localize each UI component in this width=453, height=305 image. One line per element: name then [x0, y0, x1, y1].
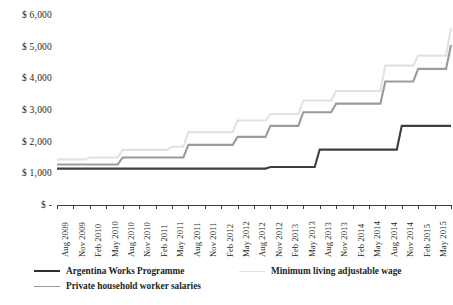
- chart-container: $ -$ 1,000$ 2,000$ 3,000$ 4,000$ 5,000$ …: [0, 0, 453, 305]
- x-axis-tick-label: Aug 2013: [323, 222, 333, 257]
- x-axis-tick-label: May 2010: [110, 221, 120, 257]
- y-axis-labels: $ -$ 1,000$ 2,000$ 3,000$ 4,000$ 5,000$ …: [0, 0, 52, 215]
- x-axis-tick-label: Feb 2012: [225, 224, 235, 257]
- x-axis-tick-label: Feb 2014: [356, 224, 366, 257]
- x-axis-tick-label: Aug 2012: [257, 222, 267, 257]
- x-axis-tick-label: Feb 2010: [93, 224, 103, 257]
- x-axis-tick-label: Aug 2010: [126, 222, 136, 257]
- legend-item-minimum-living-adjustable-wage: Minimum living adjustable wage: [239, 266, 401, 276]
- chart-legend: Argentina Works Programme Minimum living…: [0, 266, 453, 305]
- legend-swatch-argentina-works-programme: [34, 270, 60, 272]
- plot-wrapper: $ -$ 1,000$ 2,000$ 3,000$ 4,000$ 5,000$ …: [0, 0, 453, 215]
- y-axis-tick-label: $ 5,000: [22, 42, 52, 52]
- x-axis-tick-label: Nov 2013: [339, 222, 349, 257]
- x-axis-tick-label: Feb 2015: [422, 224, 432, 257]
- y-axis-tick-label: $ 6,000: [22, 10, 52, 20]
- x-axis-tick-label: Nov 2010: [142, 222, 152, 257]
- legend-label-argentina-works-programme: Argentina Works Programme: [66, 266, 184, 276]
- series-line: [57, 126, 451, 169]
- plot-area: [57, 0, 451, 215]
- x-axis-tick-label: Nov 2012: [274, 222, 284, 257]
- x-axis-tick-label: May 2013: [307, 221, 317, 257]
- x-axis-tick-label: May 2011: [175, 221, 185, 257]
- y-axis-tick-label: $ 3,000: [22, 105, 52, 115]
- series-lines: [57, 0, 451, 215]
- x-axis-labels: Aug 2009Nov 2009Feb 2010May 2010Aug 2010…: [57, 209, 451, 265]
- y-axis-tick-label: $ 4,000: [22, 73, 52, 83]
- y-axis-tick-label: $ 1,000: [22, 168, 52, 178]
- x-axis-tick-label: Feb 2011: [159, 224, 169, 257]
- y-axis-tick-label: $ -: [41, 200, 52, 210]
- legend-item-private-household-worker-salaries: Private household worker salaries: [34, 281, 201, 291]
- x-axis-tick-label: Nov 2011: [208, 222, 218, 257]
- legend-label-minimum-living-adjustable-wage: Minimum living adjustable wage: [271, 266, 401, 276]
- x-axis-tick-label: Feb 2013: [290, 224, 300, 257]
- legend-label-private-household-worker-salaries: Private household worker salaries: [66, 281, 201, 291]
- x-axis-tick-label: Aug 2014: [389, 222, 399, 257]
- x-axis-tick: [451, 205, 452, 209]
- series-line: [57, 28, 451, 159]
- x-axis-tick-label: May 2015: [438, 221, 448, 257]
- x-axis-tick-label: May 2012: [241, 221, 251, 257]
- x-axis-tick-label: May 2014: [372, 221, 382, 257]
- legend-swatch-minimum-living-adjustable-wage: [239, 271, 265, 272]
- x-axis-tick-label: Nov 2014: [405, 222, 415, 257]
- x-axis-tick-label: Aug 2009: [60, 222, 70, 257]
- legend-swatch-private-household-worker-salaries: [34, 286, 60, 287]
- x-axis-tick-label: Aug 2011: [192, 222, 202, 257]
- y-axis-tick-label: $ 2,000: [22, 137, 52, 147]
- series-line: [57, 45, 451, 164]
- x-axis-tick-label: Nov 2009: [77, 222, 87, 257]
- legend-item-argentina-works-programme: Argentina Works Programme: [34, 266, 184, 276]
